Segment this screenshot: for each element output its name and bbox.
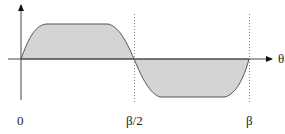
positive-lobe — [21, 24, 134, 59]
negative-lobe — [134, 59, 249, 97]
waveform-diagram: θ 0 β/2 β — [0, 0, 285, 134]
tick-label-half-beta: β/2 — [126, 113, 143, 128]
tick-label-zero: 0 — [17, 113, 24, 128]
tick-label-beta: β — [246, 113, 253, 128]
theta-axis-label: θ — [278, 51, 284, 66]
